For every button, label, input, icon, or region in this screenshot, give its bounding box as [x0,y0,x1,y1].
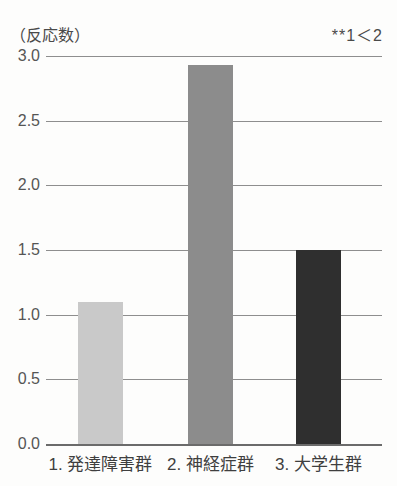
gridline-3.0 [46,56,382,57]
y-tick-3.0: 3.0 [0,47,40,65]
x-tick-3: 3. 大学生群 [275,450,362,475]
y-tick-2.5: 2.5 [0,112,40,130]
y-tick-2.0: 2.0 [0,176,40,194]
y-tick-0.5: 0.5 [0,370,40,388]
x-tick-2: 2. 神経症群 [167,450,254,475]
bar-1 [78,302,123,444]
bar-2 [188,65,233,444]
gridline-0.0 [46,444,382,446]
plot-area [46,56,382,444]
x-tick-1: 1. 発達障害群 [49,450,153,475]
y-tick-1.0: 1.0 [0,306,40,324]
bar-3 [296,250,341,444]
significance-annotation: **1＜2 [332,22,383,46]
x-axis-tick-labels: 1. 発達障害群2. 神経症群3. 大学生群 [0,450,397,480]
y-tick-1.5: 1.5 [0,241,40,259]
y-axis-unit-label: （反応数） [10,22,90,46]
bar-chart: （反応数） **1＜2 0.00.51.01.52.02.53.0 1. 発達障… [0,0,397,486]
